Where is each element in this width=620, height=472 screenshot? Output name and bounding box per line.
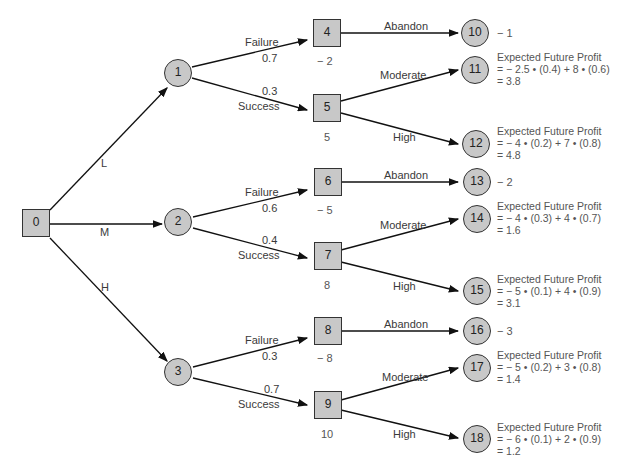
node-id: 13 <box>464 169 490 194</box>
branch-label-moderate: Moderate <box>380 219 426 231</box>
leaf-node-16: 16 <box>463 317 491 345</box>
node-value: 10 <box>321 428 333 440</box>
chance-node-3: 3 <box>164 358 192 386</box>
leaf-node-12: 12 <box>462 130 490 158</box>
branch-prob-success: 0.7 <box>264 383 279 395</box>
branch-label-failure: Failure <box>245 186 279 198</box>
node-id: 16 <box>464 318 490 343</box>
node-id: 12 <box>463 131 489 156</box>
node-id: 8 <box>315 318 341 343</box>
node-id: 2 <box>165 209 191 234</box>
leaf-node-15: 15 <box>463 277 491 305</box>
branch-label-success: Success <box>238 249 280 261</box>
node-id: 9 <box>315 392 341 417</box>
node-value: 5 <box>324 131 330 143</box>
branch-label-failure: Failure <box>245 36 279 48</box>
decision-node-5: 5 <box>313 94 341 122</box>
expected-profit-annotation: Expected Future Profit = − 4 • (0.2) + 7… <box>497 125 601 161</box>
annotation-heading: Expected Future Profit <box>497 349 601 361</box>
annotation-heading: Expected Future Profit <box>497 51 610 63</box>
branch-prob-failure: 0.6 <box>262 202 277 214</box>
leaf-node-13: 13 <box>463 168 491 196</box>
annotation-formula: = − 5 • (0.1) + 4 • (0.9) <box>497 285 601 297</box>
branch-label-H: H <box>101 281 109 293</box>
expected-profit-annotation: Expected Future Profit = − 2.5 • (0.4) +… <box>497 51 610 87</box>
leaf-node-18: 18 <box>463 425 491 453</box>
expected-profit-annotation: Expected Future Profit = − 5 • (0.1) + 4… <box>497 273 601 309</box>
node-id: 17 <box>464 355 490 380</box>
expected-profit-annotation: Expected Future Profit = − 6 • (0.1) + 2… <box>497 421 601 457</box>
leaf-node-17: 17 <box>463 354 491 382</box>
node-value: 8 <box>324 279 330 291</box>
annotation-result: = 1.2 <box>497 445 601 457</box>
decision-node-7: 7 <box>314 242 342 270</box>
node-id: 7 <box>315 243 341 268</box>
node-id: 6 <box>315 169 341 194</box>
node-id: 3 <box>165 359 191 384</box>
decision-node-4: 4 <box>313 19 341 47</box>
node-id: 11 <box>462 57 488 82</box>
annotation-heading: Expected Future Profit <box>497 125 601 137</box>
branch-label-success: Success <box>238 100 280 112</box>
node-id: 4 <box>314 20 340 45</box>
annotation-result: = 1.6 <box>497 224 601 236</box>
node-id: 15 <box>464 278 490 303</box>
node-id: 5 <box>314 95 340 120</box>
branch-label-high: High <box>393 131 416 143</box>
branch-label-abandon: Abandon <box>384 318 428 330</box>
annotation-result: = 1.4 <box>497 373 601 385</box>
branch-prob-failure: 0.7 <box>262 52 277 64</box>
node-id: 1 <box>165 60 191 85</box>
annotation-heading: Expected Future Profit <box>497 421 601 433</box>
decision-node-8: 8 <box>314 317 342 345</box>
annotation-formula: = − 2.5 • (0.4) + 8 • (0.6) <box>497 63 610 75</box>
leaf-node-10: 10 <box>461 19 489 47</box>
branch-label-success: Success <box>238 398 280 410</box>
node-value: − 8 <box>317 352 333 364</box>
leaf-node-14: 14 <box>463 205 491 233</box>
annotation-result: = 3.1 <box>497 297 601 309</box>
branch-prob-success: 0.4 <box>262 234 277 246</box>
leaf-value: − 2 <box>497 176 513 188</box>
annotation-formula: = − 4 • (0.3) + 4 • (0.7) <box>497 212 601 224</box>
branch-label-moderate: Moderate <box>380 69 426 81</box>
branch-label-failure: Failure <box>245 334 279 346</box>
node-value: − 5 <box>317 204 333 216</box>
annotation-formula: = − 4 • (0.2) + 7 • (0.8) <box>497 137 601 149</box>
node-id: 10 <box>462 20 488 45</box>
annotation-heading: Expected Future Profit <box>497 273 601 285</box>
annotation-formula: = − 6 • (0.1) + 2 • (0.9) <box>497 433 601 445</box>
decision-node-6: 6 <box>314 168 342 196</box>
node-id: 14 <box>464 206 490 231</box>
chance-node-2: 2 <box>164 208 192 236</box>
decision-node-9: 9 <box>314 391 342 419</box>
annotation-result: = 3.8 <box>497 75 610 87</box>
branch-label-M: M <box>100 226 109 238</box>
branch-label-abandon: Abandon <box>384 20 428 32</box>
leaf-value: − 1 <box>497 27 513 39</box>
expected-profit-annotation: Expected Future Profit = − 5 • (0.2) + 3… <box>497 349 601 385</box>
leaf-node-11: 11 <box>461 56 489 84</box>
node-id: 18 <box>464 426 490 451</box>
node-id: 0 <box>23 210 49 235</box>
branch-label-high: High <box>393 428 416 440</box>
branch-label-abandon: Abandon <box>384 169 428 181</box>
decision-node-0: 0 <box>22 209 50 237</box>
leaf-value: − 3 <box>497 325 513 337</box>
annotation-heading: Expected Future Profit <box>497 200 601 212</box>
branch-prob-failure: 0.3 <box>262 350 277 362</box>
branch-label-moderate: Moderate <box>382 371 428 383</box>
annotation-result: = 4.8 <box>497 149 601 161</box>
expected-profit-annotation: Expected Future Profit = − 4 • (0.3) + 4… <box>497 200 601 236</box>
node-value: − 2 <box>317 55 333 67</box>
branch-label-L: L <box>101 157 107 169</box>
branch-prob-success: 0.3 <box>262 85 277 97</box>
chance-node-1: 1 <box>164 59 192 87</box>
branch-label-high: High <box>393 280 416 292</box>
annotation-formula: = − 5 • (0.2) + 3 • (0.8) <box>497 361 601 373</box>
